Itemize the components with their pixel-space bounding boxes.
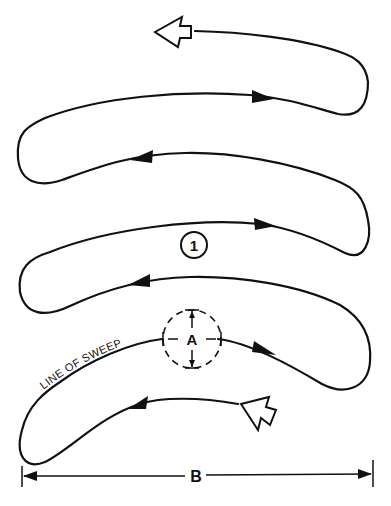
sweep-pattern-diagram: 1 A LINE OF SWEEP B (0, 0, 391, 506)
line-of-sweep-label: LINE OF SWEEP (37, 336, 123, 391)
sweep-width-label: A (187, 331, 198, 348)
end-arrow-icon (155, 17, 191, 47)
direction-arrow-icon (254, 218, 276, 230)
direction-arrow-icon (130, 150, 153, 163)
dimension-arrow-up-icon (189, 311, 195, 318)
dimension-b-line-right (206, 474, 371, 475)
dimension-b-arrow-right-icon (358, 469, 372, 479)
dimension-b-arrow-left-icon (23, 471, 37, 481)
direction-arrow-icon (252, 341, 276, 355)
start-arrow-icon (241, 397, 276, 430)
leg-number-label: 1 (190, 237, 198, 254)
dimension-arrow-down-icon (189, 360, 195, 367)
total-width-label: B (190, 468, 202, 485)
direction-arrow-icon (128, 274, 150, 287)
